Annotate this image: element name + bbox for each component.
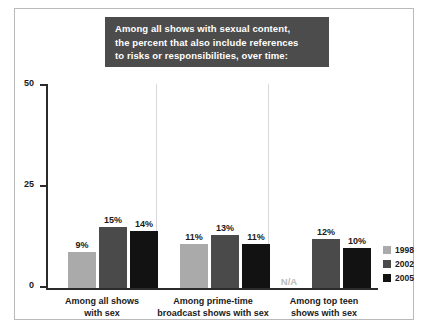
x-axis-group-label-1-line-2: with sex	[46, 308, 158, 320]
plot-area: 50 25 0 9% 15% 14% 11% 13% 11% N/A	[46, 85, 378, 288]
x-axis-group-label-1: Among all shows with sex	[46, 296, 158, 319]
bar-value-label: 11%	[185, 232, 203, 242]
x-axis	[46, 288, 378, 290]
x-axis-group-label-1-line-1: Among all shows	[46, 296, 158, 308]
chart-title-banner: Among all shows with sexual content, the…	[105, 17, 329, 67]
chart-title-line-2: the percent that also include references	[115, 36, 320, 50]
x-axis-group-label-2-line-2: broadcast shows with sex	[156, 308, 270, 320]
legend-item-2005: 2005	[383, 271, 414, 285]
bar-2002-group-3: 12%	[312, 239, 340, 288]
x-axis-group-label-2: Among prime-time broadcast shows with se…	[156, 296, 270, 319]
bar-value-label: 11%	[247, 232, 265, 242]
y-tick-label-25: 25	[24, 179, 34, 189]
legend-swatch-icon-1998	[383, 246, 391, 254]
x-axis-group-label-2-line-1: Among prime-time	[156, 296, 270, 308]
bar-1998-group-2: 11%	[180, 244, 208, 289]
y-tick-50: 50	[40, 84, 48, 86]
bar-value-label: 12%	[317, 227, 335, 237]
legend-label-2002: 2002	[395, 259, 414, 269]
chart-title-line-3: to risks or responsibilities, over time:	[115, 49, 320, 63]
bar-value-label: 15%	[104, 215, 122, 225]
bar-value-label: 9%	[75, 240, 88, 250]
y-tick-0: 0	[40, 286, 48, 288]
x-axis-group-label-3-line-1: Among top teen	[270, 296, 378, 308]
x-axis-group-label-3-line-2: shows with sex	[270, 308, 378, 320]
y-tick-label-50: 50	[24, 78, 34, 88]
chart-title-line-1: Among all shows with sexual content,	[115, 22, 320, 36]
bar-2005-group-1: 14%	[130, 231, 158, 288]
bar-2005-group-3: 10%	[343, 248, 371, 289]
legend-swatch-icon-2002	[383, 260, 391, 268]
legend-item-1998: 1998	[383, 243, 414, 257]
bar-1998-group-3-na: N/A	[274, 276, 304, 287]
bar-1998-group-1: 9%	[68, 252, 96, 289]
x-axis-group-label-3: Among top teen shows with sex	[270, 296, 378, 319]
y-tick-25: 25	[40, 185, 48, 187]
bar-2002-group-1: 15%	[99, 227, 127, 288]
bar-value-label: 10%	[348, 236, 366, 246]
legend-swatch-icon-2005	[383, 274, 391, 282]
bar-value-label: 13%	[216, 223, 234, 233]
legend-label-2005: 2005	[395, 273, 414, 283]
bar-2005-group-2: 11%	[242, 244, 270, 289]
bar-2002-group-2: 13%	[211, 235, 239, 288]
y-tick-label-0: 0	[29, 280, 34, 290]
legend-label-1998: 1998	[395, 245, 414, 255]
bar-value-label: 14%	[135, 219, 153, 229]
chart-legend: 1998 2002 2005	[383, 243, 414, 285]
legend-item-2002: 2002	[383, 257, 414, 271]
chart-figure: Among all shows with sexual content, the…	[0, 0, 429, 335]
